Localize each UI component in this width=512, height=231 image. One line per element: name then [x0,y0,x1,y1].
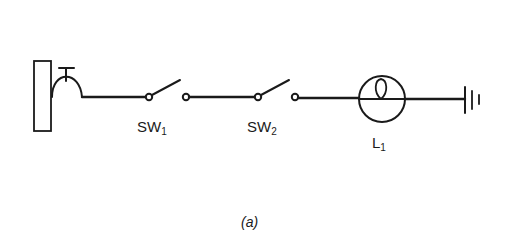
switch-sw2-icon [255,80,298,100]
circuit-diagram [0,0,512,231]
label-l1-sub: 1 [380,142,386,153]
label-sw2: SW2 [247,119,277,137]
label-sw1: SW1 [137,119,167,137]
label-sw1-sub: 1 [161,126,167,137]
plug-icon [52,68,82,97]
wall-plate [34,61,51,131]
label-sw2-main: SW [247,118,271,135]
label-sw2-sub: 2 [271,126,277,137]
switch-sw1-icon [146,80,189,100]
figure-caption: (a) [241,214,258,230]
lamp-l1-icon [359,76,405,122]
ground-icon [465,87,479,113]
label-sw1-main: SW [137,118,161,135]
label-l1: L1 [372,135,386,153]
